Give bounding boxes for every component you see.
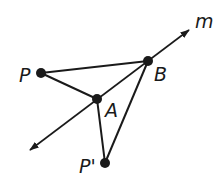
label-line-m: m [195,10,214,32]
label-P-prime: P' [79,155,96,177]
line-m [30,30,189,150]
point-B [143,56,153,66]
point-P-prime [100,158,110,168]
label-B: B [154,63,167,85]
reflection-diagram: P B A P' m [0,0,223,179]
segment-PA [41,73,97,99]
label-P: P [19,64,31,86]
label-A: A [103,99,118,121]
point-P [36,68,46,78]
segment-AP-prime [97,99,105,163]
segment-PB [41,61,148,73]
point-A [92,94,102,104]
